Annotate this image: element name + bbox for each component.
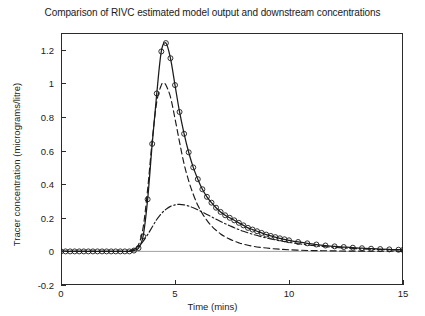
- plot-area: [61, 33, 403, 285]
- y-axis-tick-mark: [61, 117, 66, 118]
- x-tick-label: 15: [398, 288, 409, 299]
- chart-title: Comparison of RIVC estimated model outpu…: [0, 6, 425, 19]
- x-axis-label: Time (mins): [0, 301, 425, 312]
- y-axis-tick-mark: [61, 83, 66, 84]
- x-tick-label: 5: [172, 288, 177, 299]
- y-tick-label: -0.2: [8, 280, 54, 291]
- x-axis-tick-mark: [175, 280, 176, 285]
- y-axis-tick-mark: [61, 184, 66, 185]
- y-tick-label: 1.2: [8, 44, 54, 55]
- x-tick-label: 0: [58, 288, 63, 299]
- chart-figure: Comparison of RIVC estimated model outpu…: [0, 0, 425, 316]
- y-axis-tick-mark: [61, 218, 66, 219]
- marker-layer: [61, 41, 403, 254]
- y-axis-tick-mark: [61, 50, 66, 51]
- x-axis-tick-mark: [289, 280, 290, 285]
- series-line-2: [61, 204, 403, 251]
- x-axis-tick-mark: [61, 280, 62, 285]
- plot-svg: [61, 33, 403, 285]
- y-axis-tick-mark: [61, 285, 66, 286]
- y-axis-label: Tracer concentration (micrograms/litre): [11, 65, 22, 265]
- x-tick-label: 10: [284, 288, 295, 299]
- y-axis-tick-mark: [61, 151, 66, 152]
- x-axis-tick-mark: [403, 280, 404, 285]
- y-axis-tick-mark: [61, 251, 66, 252]
